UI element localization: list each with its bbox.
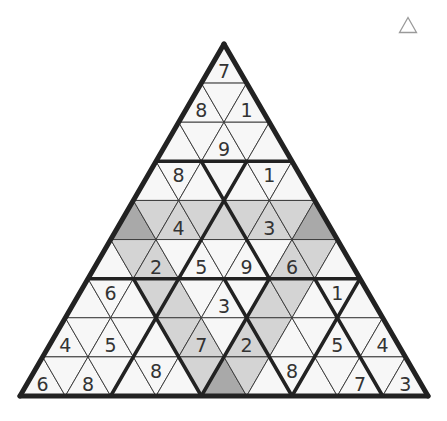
- cell-digit: 8: [195, 99, 207, 121]
- cell-digit: 5: [195, 256, 207, 278]
- cell-digit: 6: [37, 373, 49, 395]
- cell-digit: 1: [241, 99, 253, 121]
- cell-digit: 2: [241, 334, 253, 356]
- cell-digit: 1: [331, 282, 343, 304]
- cell-digit: 4: [59, 334, 71, 356]
- cell-digit: 3: [263, 217, 275, 239]
- cells-layer: [20, 44, 428, 396]
- cell-digit: 9: [241, 256, 253, 278]
- cell-digit: 6: [105, 282, 117, 304]
- triangle-outline-icon[interactable]: [398, 16, 418, 34]
- cell-digit: 9: [218, 138, 230, 160]
- cell-digit: 7: [195, 334, 207, 356]
- cell-digit: 4: [173, 217, 185, 239]
- cell-digit: 8: [150, 360, 162, 382]
- cell-digit: 6: [286, 256, 298, 278]
- cell-digit: 8: [82, 373, 94, 395]
- triangle-sudoku-board: 781981432596631457254688873: [0, 0, 447, 421]
- cell-digit: 4: [377, 334, 389, 356]
- cell-digit: 1: [263, 164, 275, 186]
- cell-digit: 8: [286, 360, 298, 382]
- cell-digit: 3: [218, 295, 230, 317]
- cell-digit: 5: [105, 334, 117, 356]
- cell-digit: 5: [331, 334, 343, 356]
- cell-digit: 2: [150, 256, 162, 278]
- cell-digit: 7: [218, 60, 230, 82]
- cell-digit: 3: [399, 373, 411, 395]
- cell-digit: 8: [173, 164, 185, 186]
- cell-digit: 7: [354, 373, 366, 395]
